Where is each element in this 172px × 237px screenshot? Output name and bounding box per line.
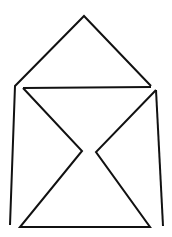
top-horizontal-line (23, 87, 151, 88)
roof-and-left-wall (10, 16, 151, 225)
right-wall (156, 90, 163, 226)
left-chevron-triangle (20, 88, 156, 227)
line-drawing (0, 0, 172, 237)
